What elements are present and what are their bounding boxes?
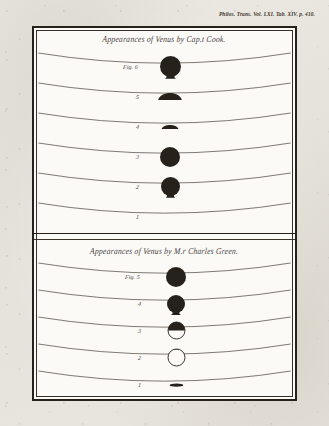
figure-label: 2 <box>138 354 142 361</box>
figure-label: 4 <box>136 123 140 130</box>
figure-label: 3 <box>136 153 140 160</box>
figure-label: 1 <box>136 213 140 220</box>
panel-cook-observations: Appearances of Venus by Cap.t Cook. Fig.… <box>34 28 295 234</box>
figure-label: 1 <box>138 381 142 388</box>
figure-label: 2 <box>136 183 140 190</box>
panel-green-observations: Appearances of Venus by M.r Charles Gree… <box>34 240 295 399</box>
journal-citation: Philos. Trans. Vol. LXI. Tab. XIV. p. 41… <box>0 11 329 17</box>
figure-label: 5 <box>136 93 140 100</box>
figure-label: 3 <box>138 327 142 334</box>
engraved-plate: Appearances of Venus by Cap.t Cook. Fig.… <box>32 26 297 401</box>
figure-label: Fig. 5 <box>125 273 141 280</box>
sun-limb-arc <box>34 210 295 225</box>
panel-divider-rule <box>34 233 295 240</box>
figure-label: Fig. 6 <box>123 63 139 70</box>
panel-title-cook: Appearances of Venus by Cap.t Cook. <box>34 34 295 45</box>
venus-disc <box>165 371 188 398</box>
figure-label: 4 <box>138 300 142 307</box>
